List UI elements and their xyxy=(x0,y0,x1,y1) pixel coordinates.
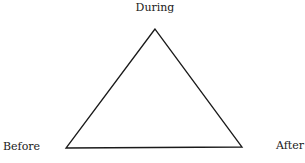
triangle-diagram: During Before After xyxy=(0,0,305,163)
vertex-label-during: During xyxy=(136,1,175,14)
triangle-shape xyxy=(0,0,305,163)
vertex-label-before: Before xyxy=(3,140,40,153)
vertex-label-after: After xyxy=(276,139,304,152)
